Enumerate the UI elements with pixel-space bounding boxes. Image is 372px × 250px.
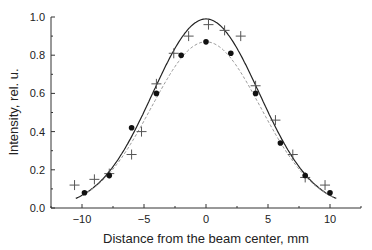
y-tick-label: 0.8 (30, 49, 45, 61)
dot-marker (253, 91, 259, 97)
solid-fit-curve (76, 19, 336, 199)
x-tick-label: −5 (138, 213, 151, 225)
cross-marker (70, 180, 80, 190)
dot-marker (228, 50, 234, 56)
dot-marker (154, 91, 160, 97)
x-tick-label: 0 (203, 213, 209, 225)
y-tick-label: 1.0 (30, 11, 45, 23)
dot-marker (129, 125, 135, 131)
cross-marker (251, 81, 261, 91)
x-tick-label: −10 (73, 213, 92, 225)
intensity-profile-chart: −10−505100.00.20.40.60.81.0 Distance fro… (0, 0, 372, 250)
dot-marker (178, 52, 184, 58)
x-axis-label: Distance from the beam center, mm (103, 231, 309, 246)
dot-marker (327, 190, 333, 196)
dot-marker (106, 173, 112, 179)
cross-marker (270, 115, 280, 125)
x-tick-label: 5 (265, 213, 271, 225)
cross-marker (137, 127, 147, 137)
x-tick-label: 10 (324, 213, 336, 225)
fit-curves (76, 19, 336, 199)
cross-marker (127, 150, 137, 160)
y-tick-label: 0.4 (30, 126, 45, 138)
cross-marker (236, 31, 246, 41)
dot-marker (203, 39, 209, 45)
dot-marker (278, 140, 284, 146)
cross-marker (320, 180, 330, 190)
dashed-fit-curve (82, 42, 336, 199)
data-markers (70, 20, 333, 196)
dot-marker (302, 173, 308, 179)
y-tick-label: 0.0 (30, 202, 45, 214)
cross-marker (203, 20, 213, 30)
dot-marker (82, 190, 88, 196)
axes: −10−505100.00.20.40.60.81.0 (30, 11, 361, 225)
y-tick-label: 0.2 (30, 164, 45, 176)
cross-marker (89, 174, 99, 184)
y-tick-label: 0.6 (30, 87, 45, 99)
y-axis-label: Intensity, rel. u. (6, 68, 21, 155)
cross-marker (151, 79, 161, 89)
